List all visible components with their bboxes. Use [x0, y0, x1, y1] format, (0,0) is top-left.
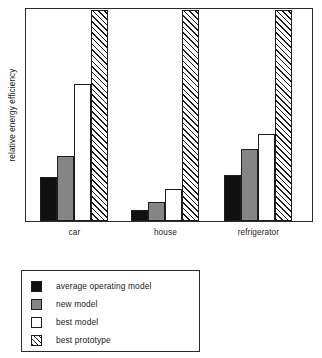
bar-house-hatched — [182, 10, 199, 221]
plot-bars-container — [26, 9, 312, 221]
bar-house-solid-black — [131, 210, 148, 221]
bar-car-solid-black — [40, 177, 57, 221]
legend-label: average operating model — [56, 281, 151, 291]
bar-car-solid-white — [74, 84, 91, 221]
x-tick-label-refrigerator: refrigerator — [213, 228, 303, 237]
bar-car-hatched — [91, 10, 108, 221]
bar-group-car — [40, 9, 108, 221]
legend-swatch-solid-white-icon — [31, 317, 42, 328]
x-tick-label-house: house — [120, 228, 210, 237]
legend-label: best model — [56, 317, 98, 327]
bar-group-refrigerator — [224, 9, 292, 221]
chart-figure: relative energy efficiency average opera… — [0, 0, 322, 358]
chart-legend: average operating modelnew modelbest mod… — [21, 270, 200, 352]
bar-house-solid-gray — [148, 202, 165, 221]
bar-car-solid-gray — [57, 156, 74, 221]
plot-area — [25, 8, 313, 222]
legend-swatch-hatched-icon — [31, 335, 42, 346]
legend-item-solid-white: best model — [31, 314, 98, 330]
bar-refrigerator-solid-white — [258, 134, 275, 221]
legend-label: new model — [56, 299, 98, 309]
bar-refrigerator-hatched — [275, 10, 292, 221]
bar-refrigerator-solid-black — [224, 175, 241, 221]
y-axis-label: relative energy efficiency — [8, 68, 17, 161]
y-axis-label-container: relative energy efficiency — [0, 8, 24, 222]
bar-house-solid-white — [165, 189, 182, 221]
legend-item-solid-black: average operating model — [31, 278, 151, 294]
bar-group-house — [131, 9, 199, 221]
legend-swatch-solid-black-icon — [31, 281, 42, 292]
legend-item-solid-gray: new model — [31, 296, 98, 312]
legend-swatch-solid-gray-icon — [31, 299, 42, 310]
bar-refrigerator-solid-gray — [241, 149, 258, 221]
x-tick-label-car: car — [29, 228, 119, 237]
legend-label: best prototype — [56, 335, 111, 345]
legend-item-hatched: best prototype — [31, 332, 111, 348]
